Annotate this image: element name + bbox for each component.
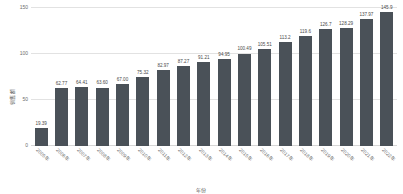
x-axis-tick-label: 2019年: [320, 146, 336, 162]
x-axis-tick-slot: 2005年: [31, 146, 51, 178]
bar-item[interactable]: 64.41: [72, 8, 92, 146]
bar-value-label: 91.21: [198, 56, 210, 61]
bar-item[interactable]: 67.00: [112, 8, 132, 146]
x-axis-tick-label: 2022年: [381, 146, 397, 162]
x-axis-tick-labels: 2005年2006年2007年2008年2009年2010年2011年2012年…: [31, 146, 397, 178]
bar-rect[interactable]: 113.2: [279, 42, 292, 146]
x-axis-tick-slot: 2010年: [133, 146, 153, 178]
plot-area: 050100150 19.3962.7764.4163.6067.0075.32…: [31, 8, 397, 146]
bar-item[interactable]: 137.97: [356, 8, 376, 146]
bar-item[interactable]: 119.6: [295, 8, 315, 146]
bar-rect[interactable]: 145.9: [380, 12, 393, 146]
x-axis-tick-label: 2015年: [238, 146, 254, 162]
x-axis-tick-label: 2011年: [157, 146, 173, 162]
x-axis-tick-slot: 2020年: [336, 146, 356, 178]
bar-value-label: 63.60: [96, 81, 108, 86]
bar-item[interactable]: 63.60: [92, 8, 112, 146]
bar-rect[interactable]: 94.95: [218, 59, 231, 146]
bar-value-label: 87.27: [178, 60, 190, 65]
x-axis-tick-slot: 2015年: [234, 146, 254, 178]
bar-value-label: 105.51: [258, 43, 272, 48]
x-axis-tick-slot: 2006年: [51, 146, 71, 178]
x-axis-tick-slot: 2021年: [356, 146, 376, 178]
x-axis-tick-label: 2018年: [299, 146, 315, 162]
x-axis-tick-label: 2005年: [35, 146, 51, 162]
bar-item[interactable]: 87.27: [173, 8, 193, 146]
bar-rect[interactable]: 126.7: [319, 29, 332, 146]
bar-value-label: 113.2: [280, 36, 291, 41]
bar-item[interactable]: 75.32: [133, 8, 153, 146]
x-axis-tick-label: 2020年: [340, 146, 356, 162]
bar-item[interactable]: 82.97: [153, 8, 173, 146]
bar-rect[interactable]: 128.29: [340, 28, 353, 146]
x-axis-tick-slot: 2008年: [92, 146, 112, 178]
bar-value-label: 126.7: [320, 23, 332, 28]
x-axis-tick-label: 2006年: [56, 146, 72, 162]
bar-value-label: 62.77: [56, 82, 68, 87]
x-axis-tick-slot: 2019年: [316, 146, 336, 178]
bar-item[interactable]: 62.77: [51, 8, 71, 146]
bar-item[interactable]: 91.21: [194, 8, 214, 146]
x-axis-title: 年份: [0, 186, 403, 193]
bar-value-label: 82.97: [157, 64, 169, 69]
bar-rect[interactable]: 91.21: [197, 62, 210, 146]
x-axis-tick-label: 2014年: [218, 146, 234, 162]
bar-chart: 销售额 050100150 19.3962.7764.4163.6067.007…: [0, 0, 403, 194]
x-axis-tick-label: 2021年: [360, 146, 376, 162]
x-axis-tick-label: 2010年: [137, 146, 153, 162]
bar-rect[interactable]: 100.49: [238, 54, 251, 146]
bar-item[interactable]: 105.51: [255, 8, 275, 146]
bar-value-label: 64.41: [76, 81, 88, 86]
x-axis-tick-slot: 2017年: [275, 146, 295, 178]
x-axis-tick-label: 2013年: [198, 146, 214, 162]
x-axis-tick-slot: 2009年: [112, 146, 132, 178]
bar-item[interactable]: 100.49: [234, 8, 254, 146]
x-axis-tick-slot: 2022年: [377, 146, 397, 178]
y-axis-tick-label: 100: [20, 50, 28, 56]
bar-value-label: 119.6: [300, 30, 311, 35]
x-axis-tick-slot: 2011年: [153, 146, 173, 178]
x-axis-tick-slot: 2007年: [72, 146, 92, 178]
bar-value-label: 94.95: [218, 53, 230, 58]
x-axis-tick-slot: 2016年: [255, 146, 275, 178]
x-axis-tick-label: 2008年: [96, 146, 112, 162]
bar-series: 19.3962.7764.4163.6067.0075.3282.9787.27…: [31, 8, 397, 146]
bar-value-label: 128.29: [339, 22, 353, 27]
x-axis-tick-slot: 2018年: [295, 146, 315, 178]
x-axis-tick-label: 2016年: [259, 146, 275, 162]
bar-item[interactable]: 126.7: [316, 8, 336, 146]
x-axis-tick-label: 2012年: [178, 146, 194, 162]
bar-value-label: 19.39: [35, 122, 47, 127]
bar-rect[interactable]: 62.77: [55, 88, 68, 146]
x-axis-tick-label: 2017年: [279, 146, 295, 162]
bar-value-label: 137.97: [359, 13, 373, 18]
x-axis-tick-label: 2009年: [117, 146, 133, 162]
bar-value-label: 100.49: [237, 47, 251, 52]
bar-rect[interactable]: 19.39: [35, 128, 48, 146]
y-axis-tick-label: 150: [20, 4, 28, 10]
bar-rect[interactable]: 67.00: [116, 84, 129, 146]
bar-rect[interactable]: 82.97: [157, 70, 170, 146]
bar-rect[interactable]: 119.6: [299, 36, 312, 146]
bar-item[interactable]: 94.95: [214, 8, 234, 146]
bar-value-label: 67.00: [117, 78, 129, 83]
y-axis-tick-label: 0: [25, 142, 28, 148]
bar-rect[interactable]: 87.27: [177, 66, 190, 146]
x-axis-tick-slot: 2012年: [173, 146, 193, 178]
bar-value-label: 145.9: [381, 6, 393, 11]
y-axis-title: 销售额: [8, 89, 15, 105]
bar-item[interactable]: 128.29: [336, 8, 356, 146]
bar-rect[interactable]: 105.51: [258, 49, 271, 146]
bar-item[interactable]: 113.2: [275, 8, 295, 146]
bar-rect[interactable]: 137.97: [360, 19, 373, 146]
bar-item[interactable]: 19.39: [31, 8, 51, 146]
bar-rect[interactable]: 63.60: [96, 88, 109, 147]
bar-rect[interactable]: 64.41: [75, 87, 88, 146]
x-axis-tick-label: 2007年: [76, 146, 92, 162]
bar-item[interactable]: 145.9: [377, 8, 397, 146]
bar-value-label: 75.32: [137, 71, 149, 76]
bar-rect[interactable]: 75.32: [136, 77, 149, 146]
y-axis-tick-label: 50: [22, 96, 28, 102]
x-axis-tick-slot: 2014年: [214, 146, 234, 178]
x-axis-tick-slot: 2013年: [194, 146, 214, 178]
